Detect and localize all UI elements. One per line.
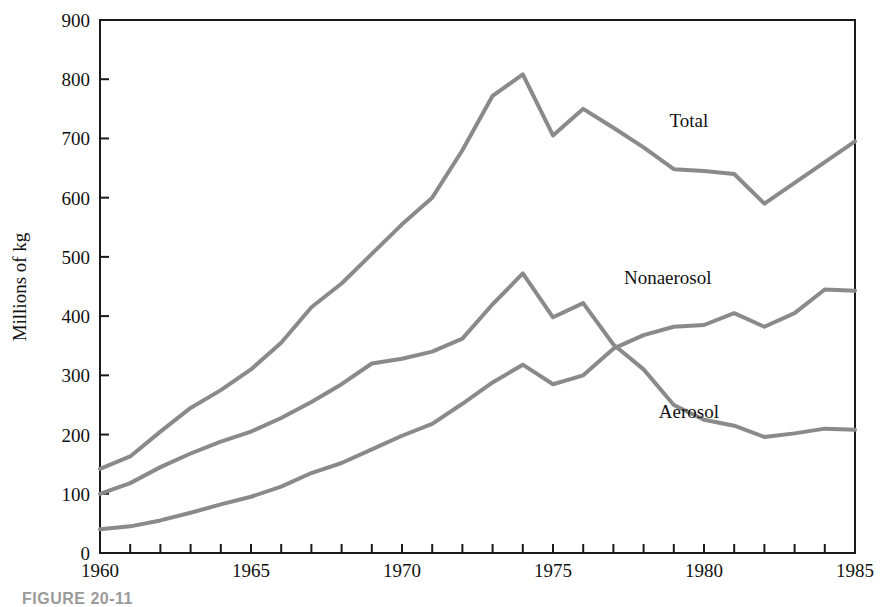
x-tick-label: 1985	[836, 560, 874, 581]
y-tick-label: 600	[62, 188, 91, 209]
y-tick-label: 200	[62, 425, 91, 446]
y-axis-ticks	[100, 20, 109, 553]
x-tick-label: 1970	[383, 560, 421, 581]
axes-frame	[100, 20, 855, 553]
series-lines	[100, 74, 855, 529]
line-chart: 0100200300400500600700800900 19601965197…	[0, 0, 885, 607]
y-tick-label: 300	[62, 365, 91, 386]
series-label-total: Total	[670, 110, 709, 131]
x-tick-label: 1965	[232, 560, 270, 581]
x-tick-label: 1975	[534, 560, 572, 581]
y-tick-label: 900	[62, 10, 91, 31]
series-line-aerosol	[100, 289, 855, 529]
y-tick-label: 400	[62, 306, 91, 327]
series-inline-labels: TotalNonaerosolAerosol	[624, 110, 719, 422]
figure-caption: FIGURE 20-11	[22, 590, 133, 607]
y-axis-tick-labels: 0100200300400500600700800900	[62, 10, 91, 564]
y-tick-label: 500	[62, 247, 91, 268]
y-axis-title: Millions of kg	[9, 232, 30, 341]
figure-root: 0100200300400500600700800900 19601965197…	[0, 0, 885, 607]
x-tick-label: 1960	[81, 560, 119, 581]
series-label-aerosol: Aerosol	[659, 401, 719, 422]
x-tick-label: 1980	[685, 560, 723, 581]
y-tick-label: 800	[62, 69, 91, 90]
x-axis-tick-labels: 196019651970197519801985	[81, 560, 874, 581]
y-tick-label: 100	[62, 484, 91, 505]
series-line-total	[100, 74, 855, 468]
y-tick-label: 700	[62, 128, 91, 149]
series-line-nonaerosol	[100, 273, 855, 493]
x-axis-ticks	[100, 544, 855, 553]
series-label-nonaerosol: Nonaerosol	[624, 267, 712, 288]
